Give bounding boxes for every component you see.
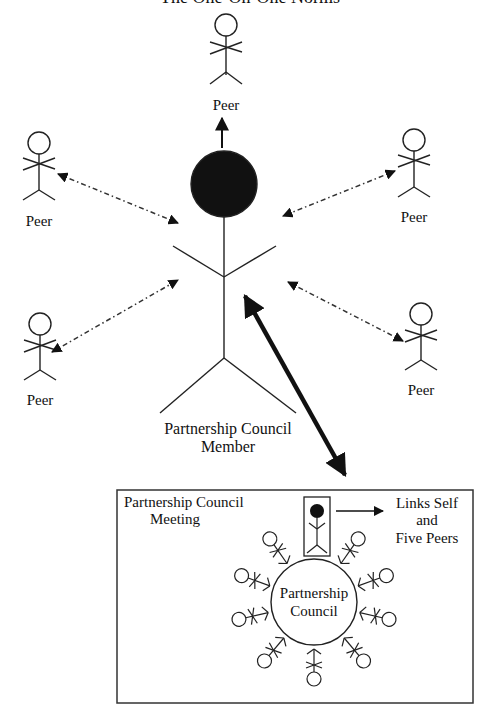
peer-lower-right-figure <box>405 303 437 370</box>
partnership-council-member-figure <box>160 151 296 413</box>
council-member <box>254 633 290 672</box>
meeting-title-line2: Meeting <box>150 511 200 527</box>
peer-lower-left-label: Peer <box>27 392 54 408</box>
peer-lower-left-figure <box>24 313 56 380</box>
peer-top-label: Peer <box>213 97 240 113</box>
links-label-line1: Links Self <box>396 495 458 511</box>
link-lower-right <box>288 282 403 341</box>
council-circle <box>271 559 357 645</box>
link-lower-left <box>52 280 178 352</box>
diagram-title: The One-On-One Norms <box>160 0 340 7</box>
peer-upper-left-figure <box>23 132 55 200</box>
peer-upper-right-figure <box>398 129 430 197</box>
member-label-line2: Member <box>201 438 256 455</box>
council-member <box>306 649 322 686</box>
council-member <box>230 605 270 629</box>
meeting-title-line1: Partnership Council <box>124 494 244 510</box>
council-member <box>334 529 368 568</box>
highlighted-member <box>304 497 330 556</box>
council-member <box>338 633 374 672</box>
council-member <box>358 605 398 629</box>
diagram-canvas: The One-On-One Norms Peer Peer Peer <box>0 0 495 723</box>
member-label-line1: Partnership Council <box>164 420 292 438</box>
link-upper-right <box>283 171 395 216</box>
link-upper-left <box>58 174 178 223</box>
peer-upper-right-label: Peer <box>401 209 428 225</box>
peer-top-figure <box>210 14 242 84</box>
links-label-line3: Five Peers <box>396 530 459 546</box>
council-label-line2: Council <box>290 603 338 619</box>
peer-upper-left-label: Peer <box>26 213 53 229</box>
council-member <box>355 566 395 594</box>
links-label-line2: and <box>416 512 438 528</box>
council-member <box>259 529 293 568</box>
council-label-line1: Partnership <box>280 585 348 601</box>
council-member <box>232 566 272 594</box>
peer-lower-right-label: Peer <box>408 382 435 398</box>
